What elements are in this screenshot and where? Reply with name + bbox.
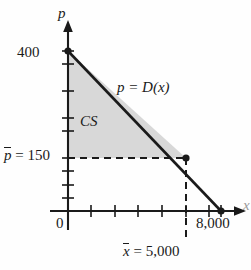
origin-label: 0 [56,216,64,231]
y-axis-arrowhead [63,20,73,32]
x-bar-symbol: x [123,244,130,259]
point-equilibrium [182,154,189,161]
x-axis-label: x [243,198,250,213]
equilibrium-quantity-value: = 5,000 [133,243,179,259]
p-bar-symbol: p [4,148,12,163]
consumer-surplus-figure: p 400 p = 150 p = D(x) CS 0 8,000 x = 5,… [0,0,251,270]
demand-curve-label: p = D(x) [117,80,170,95]
point-y-intercept [64,47,71,54]
consumer-surplus-label: CS [80,114,98,129]
x-symbol: x [123,243,130,259]
p-symbol: p [4,147,12,163]
x-intercept-label: 8,000 [196,216,230,231]
y-axis-label: p [58,6,66,21]
overbar [4,147,11,148]
point-x-intercept [217,207,224,214]
consumer-surplus-region [68,51,186,158]
overbar [123,243,129,244]
equilibrium-price-label: p = 150 [4,148,50,163]
y-intercept-label: 400 [17,45,40,60]
equilibrium-quantity-label: x = 5,000 [123,244,179,259]
equilibrium-price-value: = 150 [15,147,50,163]
